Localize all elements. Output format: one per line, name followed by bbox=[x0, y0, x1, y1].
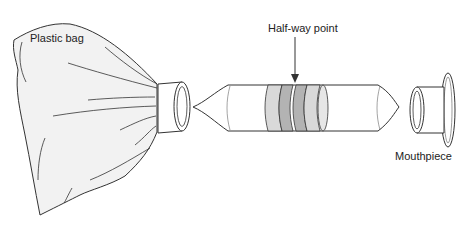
plastic-bag-label: Plastic bag bbox=[30, 32, 84, 44]
plastic-bag bbox=[13, 24, 157, 215]
mouthpiece-label: Mouthpiece bbox=[395, 150, 452, 162]
half-way-point-label: Half-way point bbox=[268, 22, 338, 34]
half-way-arrow bbox=[291, 37, 299, 83]
bag-connector-ring bbox=[158, 82, 190, 133]
tube-bands bbox=[265, 85, 328, 131]
mouthpiece bbox=[410, 73, 455, 147]
tube bbox=[193, 85, 399, 131]
